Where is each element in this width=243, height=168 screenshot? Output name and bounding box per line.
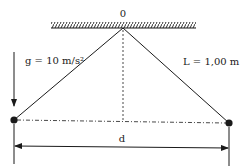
ceiling-support [51, 22, 196, 28]
gravity-label: g = 10 m/s² [25, 55, 84, 66]
pivot-label: 0 [120, 8, 126, 19]
distance-label: d [119, 133, 126, 144]
pendulum-diagram: 0 g = 10 m/s² L = 1,00 m d [0, 0, 243, 168]
right-mass [225, 119, 232, 126]
left-mass [10, 116, 17, 123]
right-string [123, 28, 229, 123]
horizontal-reference-line [17, 120, 226, 123]
length-label: L = 1,00 m [183, 56, 240, 67]
left-string [14, 28, 123, 120]
distance-dimension-line [15, 146, 228, 148]
